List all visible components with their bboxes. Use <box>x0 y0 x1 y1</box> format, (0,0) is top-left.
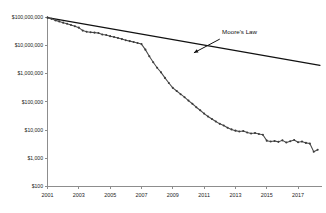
data-point-marker <box>156 67 158 69</box>
data-point-marker <box>58 20 60 22</box>
data-point-marker <box>262 134 264 136</box>
data-point-marker <box>297 141 299 143</box>
data-point-marker <box>183 96 185 98</box>
y-tick-label: $1,000,000 <box>18 70 44 76</box>
data-point-marker <box>250 132 252 134</box>
data-point-marker <box>301 141 303 143</box>
data-point-marker <box>285 141 287 143</box>
data-point-marker <box>207 115 209 117</box>
data-point-marker <box>90 31 92 33</box>
data-point-marker <box>293 139 295 141</box>
data-point-marker <box>317 149 319 151</box>
data-point-marker <box>266 140 268 142</box>
data-point-marker <box>144 49 146 51</box>
data-point-marker <box>180 93 182 95</box>
data-point-marker <box>129 40 131 42</box>
data-point-marker <box>187 100 189 102</box>
data-point-marker <box>125 39 127 41</box>
x-axis-group: 200120032005200720092011201320152017 <box>42 187 323 199</box>
chart-canvas: $100,000,000$10,000,000$1,000,000$100,00… <box>0 0 326 213</box>
x-tick-label: 2017 <box>292 192 304 198</box>
data-point-marker <box>133 41 135 43</box>
data-point-marker <box>82 30 84 32</box>
data-point-marker <box>160 71 162 73</box>
data-point-marker <box>270 141 272 143</box>
data-point-marker <box>113 36 115 38</box>
data-point-marker <box>227 127 229 129</box>
data-point-marker <box>152 61 154 63</box>
data-point-marker <box>93 32 95 34</box>
y-tick-label: $100,000 <box>22 99 43 105</box>
x-axis-ticks: 200120032005200720092011201320152017 <box>42 187 305 199</box>
data-point-marker <box>289 140 291 142</box>
data-point-marker <box>121 38 123 40</box>
data-point-marker <box>164 77 166 79</box>
moores-law-annotation-label: Moore's Law <box>222 28 257 35</box>
data-point-marker <box>199 109 201 111</box>
data-point-marker <box>50 18 52 20</box>
data-point-marker <box>281 139 283 141</box>
data-point-marker <box>117 37 119 39</box>
data-point-marker <box>211 118 213 120</box>
data-point-marker <box>86 31 88 33</box>
y-axis-ticks: $100,000,000$10,000,000$1,000,000$100,00… <box>12 14 48 190</box>
x-tick-label: 2015 <box>261 192 273 198</box>
y-axis-group: $100,000,000$10,000,000$1,000,000$100,00… <box>12 14 48 190</box>
series-group <box>46 17 320 153</box>
data-point-marker <box>234 130 236 132</box>
data-point-marker <box>309 143 311 145</box>
moores-law-annotation-arrow <box>194 39 220 53</box>
data-point-marker <box>137 42 139 44</box>
moores-law-line <box>48 18 321 66</box>
data-point-marker <box>168 82 170 84</box>
data-point-marker <box>46 17 48 19</box>
x-tick-label: 2005 <box>104 192 116 198</box>
genome-cost-chart: $100,000,000$10,000,000$1,000,000$100,00… <box>0 0 326 213</box>
y-tick-label: $10,000 <box>25 127 44 133</box>
data-point-marker <box>195 106 197 108</box>
data-point-marker <box>74 25 76 27</box>
x-tick-label: 2013 <box>229 192 241 198</box>
data-point-marker <box>274 140 276 142</box>
y-tick-label: $1,000 <box>27 155 43 161</box>
data-point-marker <box>219 123 221 125</box>
x-tick-label: 2007 <box>135 192 147 198</box>
y-tick-label: $100 <box>32 183 43 189</box>
data-point-marker <box>109 35 111 37</box>
data-point-marker <box>246 131 248 133</box>
cost-per-genome-line <box>48 18 318 152</box>
data-point-marker <box>313 151 315 153</box>
data-point-marker <box>176 90 178 92</box>
data-point-marker <box>203 113 205 115</box>
y-tick-label: $100,000,000 <box>12 14 43 20</box>
data-point-marker <box>258 133 260 135</box>
data-point-marker <box>97 32 99 34</box>
data-point-marker <box>238 131 240 133</box>
x-tick-label: 2009 <box>167 192 179 198</box>
data-point-marker <box>277 141 279 143</box>
data-point-marker <box>66 23 68 25</box>
data-point-marker <box>148 55 150 57</box>
data-point-marker <box>54 19 56 21</box>
data-point-marker <box>254 132 256 134</box>
data-point-marker <box>70 24 72 26</box>
data-point-marker <box>105 34 107 36</box>
x-tick-label: 2003 <box>73 192 85 198</box>
data-point-marker <box>172 87 174 89</box>
x-tick-label: 2001 <box>42 192 54 198</box>
data-point-marker <box>223 124 225 126</box>
data-point-marker <box>191 103 193 105</box>
x-tick-label: 2011 <box>198 192 210 198</box>
data-point-marker <box>305 142 307 144</box>
data-point-marker <box>62 22 64 24</box>
data-point-marker <box>242 130 244 132</box>
y-tick-label: $10,000,000 <box>15 42 43 48</box>
data-point-marker <box>78 27 80 29</box>
data-point-marker <box>101 33 103 35</box>
data-point-marker <box>215 120 217 122</box>
data-point-marker <box>140 43 142 45</box>
data-point-marker <box>230 128 232 130</box>
